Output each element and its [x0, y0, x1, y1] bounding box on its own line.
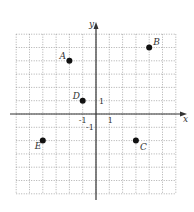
y-axis-label: y — [88, 19, 95, 29]
tick-label-x-1: 1 — [108, 116, 113, 125]
x-axis-label: x — [183, 114, 188, 124]
tick-label-y-1: 1 — [99, 97, 104, 106]
point-marker-icon — [146, 45, 152, 51]
point-label-a: A — [58, 51, 66, 61]
point-marker-icon — [80, 98, 86, 104]
y-axis-arrow-icon — [94, 22, 99, 29]
point-label-c: C — [140, 142, 147, 152]
point-c: C — [133, 138, 147, 152]
points: ABCDE — [34, 37, 160, 152]
point-marker-icon — [133, 138, 139, 144]
point-a: A — [58, 51, 72, 64]
point-d: D — [72, 91, 86, 104]
point-e: E — [34, 138, 46, 151]
point-b: B — [146, 37, 160, 51]
point-label-d: D — [72, 91, 80, 101]
tick-label-y--1: -1 — [86, 123, 94, 132]
coordinate-plane: x y 1-11-1 ABCDE — [0, 0, 194, 212]
axes: x y — [10, 19, 188, 200]
point-marker-icon — [66, 58, 72, 64]
point-label-e: E — [34, 141, 42, 151]
point-label-b: B — [152, 37, 160, 47]
